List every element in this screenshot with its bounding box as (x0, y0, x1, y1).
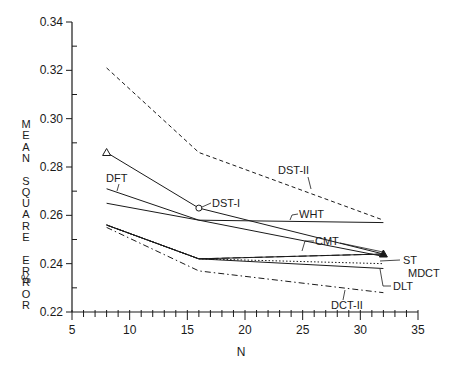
y-tick-label: 0.34 (40, 15, 64, 29)
leader-dft (117, 184, 119, 191)
y-tick-label: 0.26 (40, 208, 64, 222)
label-dst-i: DST-I (212, 197, 240, 209)
y-label-letter: S (22, 175, 29, 187)
series-dft (107, 189, 384, 257)
y-tick-label: 0.28 (40, 160, 64, 174)
y-axis-label: MEANSQUAREERROR% (21, 118, 31, 311)
triangle-marker-icon (103, 149, 111, 156)
y-label-letter: E (22, 254, 29, 266)
label-dct-ii: DCT-II (331, 299, 363, 311)
circle-marker-icon (196, 205, 202, 211)
label-dft: DFT (106, 172, 128, 184)
y-label-letter: E (22, 129, 29, 141)
series-dst-ii (107, 68, 384, 220)
label-wht: WHT (299, 208, 324, 220)
y-label-letter: M (21, 118, 30, 130)
x-tick-label: 25 (296, 323, 310, 337)
label-dst-ii: DST-II (278, 164, 309, 176)
y-label-letter: N (22, 152, 30, 164)
series-annotations: DST-II DST-I DFT WHT CMT ST MDCT DLT DCT… (106, 164, 440, 311)
label-st: ST (403, 254, 417, 266)
series-cmt (107, 225, 384, 259)
y-label-letter: Q (22, 186, 31, 198)
y-label-letter: A (22, 208, 30, 220)
y-tick-label: 0.24 (40, 257, 64, 271)
leader-dst-ii (308, 177, 311, 189)
y-label-letter: U (22, 197, 30, 209)
mse-line-chart: 0.220.240.260.280.300.320.34510152025303… (0, 0, 458, 372)
x-tick-label: 30 (354, 323, 368, 337)
x-tick-label: 20 (238, 323, 252, 337)
label-mdct: MDCT (408, 267, 440, 279)
series-st (107, 225, 384, 259)
axes: 0.220.240.260.280.300.320.34510152025303… (40, 15, 425, 337)
y-label-letter: O (22, 288, 31, 300)
x-tick-label: 15 (181, 323, 195, 337)
label-cmt: CMT (315, 235, 339, 247)
series-lines (103, 68, 388, 293)
label-dlt: DLT (393, 280, 413, 292)
leader-wht (290, 214, 298, 220)
x-axis-label: N (237, 345, 246, 359)
leader-st (380, 260, 400, 261)
y-tick-label: 0.22 (40, 305, 64, 319)
y-label-letter: A (22, 141, 30, 153)
y-tick-label: 0.30 (40, 112, 64, 126)
y-label-unit: % (21, 273, 31, 285)
leader-dst-i (202, 203, 211, 207)
x-tick-label: 35 (411, 323, 425, 337)
x-tick-label: 5 (69, 323, 76, 337)
leader-dlt (380, 269, 391, 286)
leader-cmt-2 (340, 243, 383, 252)
y-label-letter: R (22, 220, 30, 232)
y-label-letter: E (22, 231, 29, 243)
y-tick-label: 0.32 (40, 63, 64, 77)
x-tick-label: 10 (123, 323, 137, 337)
y-label-letter: R (22, 299, 30, 311)
